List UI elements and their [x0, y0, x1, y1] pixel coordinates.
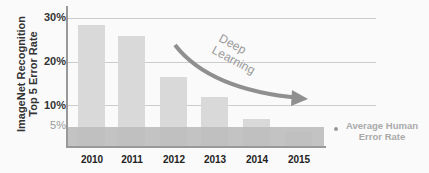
y-axis — [66, 6, 68, 147]
y-tick-5: 5% — [32, 119, 66, 131]
x-tick-2012: 2012 — [154, 154, 194, 165]
human-error-band — [67, 127, 324, 146]
human-label-line2: Error Rate — [342, 131, 422, 142]
y-axis-label-line1: ImageNet Recognition — [15, 0, 27, 149]
human-error-label: Average Human Error Rate — [342, 120, 422, 142]
y-tick-20: 20% — [32, 55, 66, 67]
human-label-line1: Average Human — [342, 120, 422, 131]
x-axis — [66, 146, 326, 148]
x-tick-2014: 2014 — [237, 154, 277, 165]
human-marker-dot — [334, 127, 338, 131]
x-tick-2011: 2011 — [112, 154, 152, 165]
gridline-30 — [66, 18, 376, 19]
y-tick-30: 30% — [32, 11, 66, 23]
y-tick-10: 10% — [32, 99, 66, 111]
x-tick-2013: 2013 — [195, 154, 235, 165]
x-tick-2015: 2015 — [279, 154, 319, 165]
x-tick-2010: 2010 — [72, 154, 112, 165]
